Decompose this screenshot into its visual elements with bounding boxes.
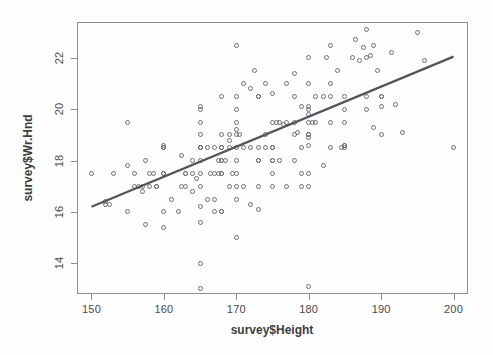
y-axis-tick-label: 22 [53, 52, 65, 65]
scatter-plot-figure: 150160170180190200 1416182022 survey$Hei… [0, 0, 493, 355]
x-axis-tick [454, 294, 455, 300]
y-axis-title: survey$Wr.Hnd [21, 114, 35, 201]
x-axis-tick-label: 200 [444, 303, 463, 315]
x-axis-tick-label: 150 [82, 303, 101, 315]
x-axis-tick-label: 170 [227, 303, 246, 315]
x-axis-tick [381, 294, 382, 300]
plot-area-box [77, 22, 468, 294]
y-axis-tick [71, 58, 77, 59]
x-axis-tick [236, 294, 237, 300]
y-axis-tick-label: 20 [53, 103, 65, 116]
y-axis-tick [71, 161, 77, 162]
x-axis-tick-label: 160 [154, 303, 173, 315]
y-axis-tick [71, 263, 77, 264]
x-axis-title: survey$Height [231, 323, 314, 337]
y-axis-tick-label: 16 [53, 206, 65, 219]
y-axis-tick [71, 109, 77, 110]
y-axis-tick-label: 14 [53, 257, 65, 270]
y-axis-tick [71, 212, 77, 213]
x-axis-tick [91, 294, 92, 300]
y-axis-tick-label: 18 [53, 154, 65, 167]
x-axis-tick [164, 294, 165, 300]
x-axis-tick [309, 294, 310, 300]
x-axis-tick-label: 180 [299, 303, 318, 315]
x-axis-tick-label: 190 [372, 303, 391, 315]
